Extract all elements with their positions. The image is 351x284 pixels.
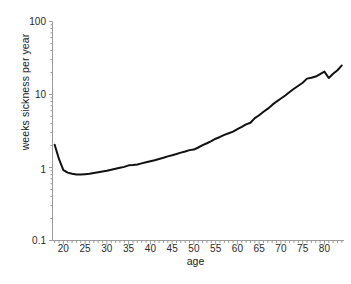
x-tick-80: 80	[309, 244, 339, 254]
chart-figure: weeks sickness per year 100 10 1 0.1 202…	[0, 0, 351, 284]
plot-area	[0, 0, 351, 284]
axis-lines	[53, 22, 345, 241]
tick-marks	[49, 22, 342, 245]
data-line-weeks-sickness	[55, 65, 342, 174]
x-axis-title: age	[0, 255, 351, 267]
